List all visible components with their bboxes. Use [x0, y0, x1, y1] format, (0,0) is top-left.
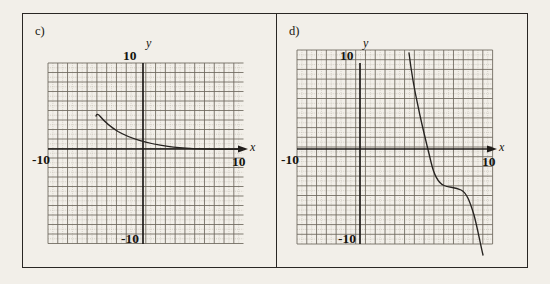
- panel-c-x-max-tick: 10: [232, 154, 246, 170]
- panel-c-svg: [23, 14, 276, 267]
- panel-d-x-min-tick: -10: [281, 152, 299, 168]
- panel-c-plot: x y 10 -10 -10 10: [23, 14, 276, 267]
- panel-c-x-axis-label: x: [250, 140, 255, 155]
- panel-d-plot: x y 10 -10 -10 10: [277, 14, 530, 267]
- panel-d-y-max-tick: 10: [340, 48, 354, 64]
- panel-c: c): [23, 14, 276, 267]
- panel-d-y-min-tick: -10: [338, 231, 356, 247]
- panel-c-grid-major: [48, 63, 244, 244]
- panel-c-y-min-tick: -10: [121, 231, 139, 247]
- panel-d-grid-major: [297, 50, 493, 244]
- panel-c-y-axis-label: y: [146, 36, 151, 51]
- panel-d: d): [277, 14, 530, 267]
- panel-d-x-axis-label: x: [499, 140, 504, 155]
- figure-frame: c): [22, 13, 528, 268]
- panel-d-svg: [277, 14, 530, 267]
- panel-c-y-max-tick: 10: [123, 48, 137, 64]
- panel-c-x-min-tick: -10: [32, 152, 50, 168]
- panel-d-x-max-tick: 10: [482, 154, 496, 170]
- figure-root: c): [0, 0, 550, 284]
- panel-d-y-axis-label: y: [363, 36, 368, 51]
